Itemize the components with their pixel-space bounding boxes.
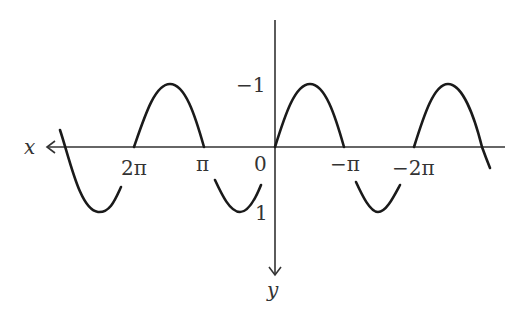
tick-pi: π (196, 152, 209, 176)
curve-trough-right (356, 182, 400, 212)
y-axis-label: y (266, 278, 279, 302)
x-axis-label: x (24, 135, 35, 159)
tick-1: 1 (255, 201, 268, 225)
tick-neg-pi: −π (330, 152, 360, 176)
curve-arch-1 (134, 84, 204, 147)
tick-neg-1: −1 (236, 73, 265, 97)
curve-trough-left (60, 130, 121, 212)
tick-0: 0 (254, 152, 267, 176)
tick-neg-2pi: −2π (392, 156, 435, 180)
tick-2pi: 2π (121, 156, 147, 180)
curve-arch-2 (275, 84, 344, 147)
chart-plot: x y 2π π 0 −π −2π −1 1 (0, 0, 524, 322)
